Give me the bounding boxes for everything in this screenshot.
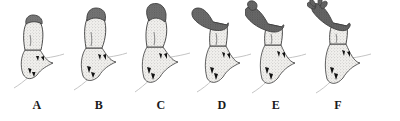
- panel-label-a: A: [6, 98, 68, 112]
- panel-c-drawing: [130, 0, 192, 98]
- panel-e: E: [245, 0, 307, 121]
- panel-label-f: F: [307, 98, 369, 112]
- apical-cap: [192, 8, 228, 31]
- figure-developmental-series: A: [0, 0, 400, 121]
- panel-a-drawing: [6, 0, 68, 98]
- apical-cap: [245, 7, 284, 32]
- base-hairline-right: [171, 53, 190, 57]
- panel-b-drawing: [68, 0, 130, 98]
- apical-cap: [312, 4, 351, 31]
- base-flare: [205, 46, 240, 82]
- base-flare: [260, 45, 295, 83]
- panel-c: C: [130, 0, 192, 121]
- panel-e-drawing: [245, 0, 307, 98]
- panel-f: F: [307, 0, 369, 121]
- panel-a: A: [6, 0, 68, 121]
- base-hairline-right: [288, 54, 306, 58]
- panel-f-drawing: [307, 0, 373, 98]
- shaft-body: [24, 20, 43, 50]
- panel-label-e: E: [245, 98, 307, 112]
- base-hairline-right: [352, 54, 371, 58]
- base-flare: [142, 47, 178, 82]
- panel-label-b: B: [68, 98, 130, 112]
- base-flare: [81, 48, 116, 81]
- base-hairline-right: [109, 53, 127, 57]
- panel-d-drawing: [191, 0, 253, 98]
- panel-label-d: D: [191, 98, 253, 112]
- panel-label-c: C: [130, 98, 192, 112]
- panel-b: B: [68, 0, 130, 121]
- panel-d: D: [191, 0, 253, 121]
- base-hairline-right: [46, 54, 64, 58]
- base-flare: [325, 44, 360, 83]
- base-flare: [21, 50, 53, 79]
